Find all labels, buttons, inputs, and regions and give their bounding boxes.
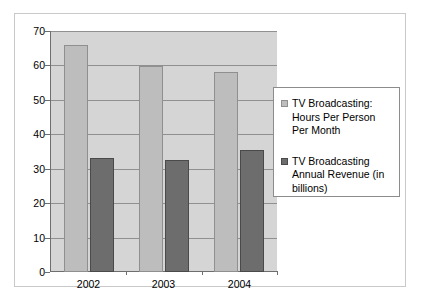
- legend-label: TV Broadcasting: Hours Per Person Per Mo…: [292, 97, 393, 138]
- legend-item[interactable]: TV Broadcasting Annual Revenue (in billi…: [281, 155, 393, 196]
- y-tick-label: 10: [19, 233, 45, 243]
- y-tick-label: 20: [19, 198, 45, 208]
- y-tick-mark: [45, 100, 50, 101]
- x-tick-label: 2002: [51, 278, 126, 290]
- x-tick-mark: [202, 271, 203, 275]
- y-tick-label: 70: [19, 26, 45, 36]
- y-tick-label: 0: [19, 267, 45, 277]
- legend-swatch-icon: [281, 158, 288, 165]
- bar: [165, 160, 189, 272]
- legend-swatch-icon: [281, 100, 288, 107]
- bar: [64, 45, 88, 272]
- x-tick-label: 2004: [202, 278, 277, 290]
- bar: [214, 72, 238, 272]
- chart-legend: TV Broadcasting: Hours Per Person Per Mo…: [273, 87, 400, 197]
- y-tick-mark: [45, 169, 50, 170]
- y-tick-mark: [45, 203, 50, 204]
- chart-figure: 010203040506070 200220032004 TV Broadcas…: [14, 13, 406, 287]
- y-tick-mark: [45, 65, 50, 66]
- bar: [139, 66, 163, 272]
- y-tick-label: 40: [19, 129, 45, 139]
- y-axis-line: [50, 31, 51, 272]
- bar: [240, 150, 264, 272]
- y-tick-label: 60: [19, 60, 45, 70]
- y-tick-label: 50: [19, 95, 45, 105]
- y-tick-mark: [45, 134, 50, 135]
- legend-label: TV Broadcasting Annual Revenue (in billi…: [292, 155, 393, 196]
- x-tick-label: 2003: [126, 278, 201, 290]
- legend-item[interactable]: TV Broadcasting: Hours Per Person Per Mo…: [281, 97, 393, 138]
- y-tick-label: 30: [19, 164, 45, 174]
- y-tick-mark: [45, 272, 50, 273]
- x-tick-mark: [277, 271, 278, 275]
- y-tick-mark: [45, 238, 50, 239]
- gridline: [51, 31, 277, 32]
- y-tick-mark: [45, 31, 50, 32]
- x-tick-mark: [126, 271, 127, 275]
- bar: [90, 158, 114, 272]
